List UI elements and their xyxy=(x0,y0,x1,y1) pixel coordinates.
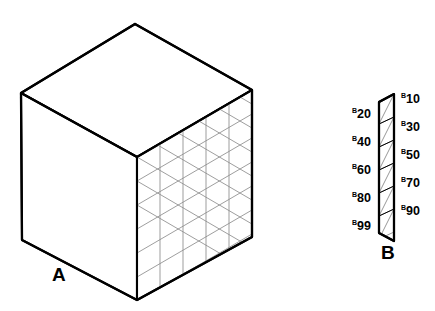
diagram-canvas: A B B10 B30 B50 B70 B90 B20 B40 B60 B80 … xyxy=(0,0,435,311)
slab-label-number: 99 xyxy=(357,219,371,233)
slab-label-b80: B80 xyxy=(352,191,371,204)
slab-label-b99: B99 xyxy=(352,219,371,232)
figure-b-slab xyxy=(379,94,394,241)
slab-label-number: 80 xyxy=(357,191,371,205)
slab-label-number: 40 xyxy=(357,135,371,149)
slab-label-b10: B10 xyxy=(401,92,420,105)
slab-label-b60: B60 xyxy=(352,163,371,176)
slab-label-b20: B20 xyxy=(352,107,371,120)
slab-label-number: 50 xyxy=(406,148,420,162)
slab-label-number: 10 xyxy=(406,92,420,106)
figure-a-cube xyxy=(21,13,252,301)
slab-label-number: 20 xyxy=(357,107,371,121)
slab-label-number: 30 xyxy=(406,120,420,134)
slab-label-b90: B90 xyxy=(401,204,420,217)
figure-a-caption: A xyxy=(52,265,66,284)
figure-b-caption: B xyxy=(381,243,395,262)
slab-label-number: 90 xyxy=(406,204,420,218)
slab-label-b30: B30 xyxy=(401,120,420,133)
slab-label-number: 70 xyxy=(406,176,420,190)
slab-label-b70: B70 xyxy=(401,176,420,189)
slab-label-number: 60 xyxy=(357,163,371,177)
slab-label-b50: B50 xyxy=(401,148,420,161)
slab-label-b40: B40 xyxy=(352,135,371,148)
